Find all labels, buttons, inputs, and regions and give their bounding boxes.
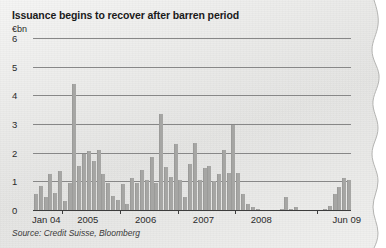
bar	[159, 114, 163, 210]
bar	[222, 150, 226, 210]
bar	[333, 194, 337, 210]
x-axis-tick	[317, 210, 318, 214]
bar	[63, 201, 67, 210]
bar	[68, 183, 72, 210]
plot-area	[33, 38, 351, 210]
bar	[217, 174, 221, 210]
bar	[116, 200, 120, 210]
y-axis-tick-labels: 0123456	[0, 38, 30, 210]
x-axis-tick-label: 2008	[251, 214, 272, 225]
bar-series	[33, 38, 351, 210]
bar	[106, 183, 110, 210]
bar	[188, 164, 192, 210]
x-axis-tick-label: 2007	[193, 214, 214, 225]
x-axis-tick-label: 2005	[77, 214, 98, 225]
bar	[77, 166, 81, 210]
bar	[183, 197, 187, 210]
bar	[169, 177, 173, 210]
bar	[203, 168, 207, 210]
y-axis-tick-label: 6	[12, 33, 17, 44]
bar	[154, 183, 158, 210]
x-axis-tick	[62, 210, 63, 214]
bar	[236, 173, 240, 210]
bar	[207, 166, 211, 210]
bar	[174, 144, 178, 210]
bar	[198, 180, 202, 210]
bar	[121, 184, 125, 210]
bar	[347, 180, 351, 210]
bar	[284, 197, 288, 210]
x-axis-tick	[235, 210, 236, 214]
bar	[53, 193, 57, 210]
bar	[44, 197, 48, 210]
bar	[140, 170, 144, 210]
bar	[87, 151, 91, 210]
x-axis-line	[33, 210, 351, 211]
bar	[231, 125, 235, 210]
chart-figure: Issuance begins to recover after barren …	[0, 0, 386, 248]
bar	[39, 186, 43, 210]
bar	[82, 154, 86, 210]
bar	[150, 157, 154, 210]
bar	[135, 183, 139, 210]
bar	[241, 194, 245, 210]
bar	[342, 178, 346, 210]
bar	[101, 174, 105, 210]
y-axis-tick-label: 3	[12, 119, 17, 130]
bar	[164, 167, 168, 210]
bar	[58, 171, 62, 210]
y-axis-tick-label: 5	[12, 61, 17, 72]
x-axis-tick-label: Jun 09	[333, 214, 362, 225]
page-title: Issuance begins to recover after barren …	[12, 9, 239, 21]
bar	[212, 181, 216, 210]
torn-page-edge-icon	[360, 0, 386, 248]
x-axis-tick-label: Jan 04	[32, 214, 61, 225]
bar	[193, 143, 197, 210]
bar	[34, 194, 38, 210]
y-axis-tick-label: 1	[12, 176, 17, 187]
bar	[227, 173, 231, 210]
x-axis-tick	[178, 210, 179, 214]
y-axis-tick-label: 0	[12, 205, 17, 216]
bar	[178, 180, 182, 210]
bar	[145, 180, 149, 210]
y-axis-tick-label: 4	[12, 90, 17, 101]
source-attribution: Source: Credit Suisse, Bloomberg	[12, 228, 140, 238]
bar	[337, 187, 341, 210]
y-axis-tick-label: 2	[12, 147, 17, 158]
x-axis-tick	[120, 210, 121, 214]
bar	[111, 196, 115, 210]
bar	[130, 178, 134, 210]
bar	[97, 150, 101, 210]
bar	[92, 161, 96, 210]
bar	[48, 174, 52, 210]
x-axis-tick-label: 2006	[135, 214, 156, 225]
bar	[72, 84, 76, 210]
